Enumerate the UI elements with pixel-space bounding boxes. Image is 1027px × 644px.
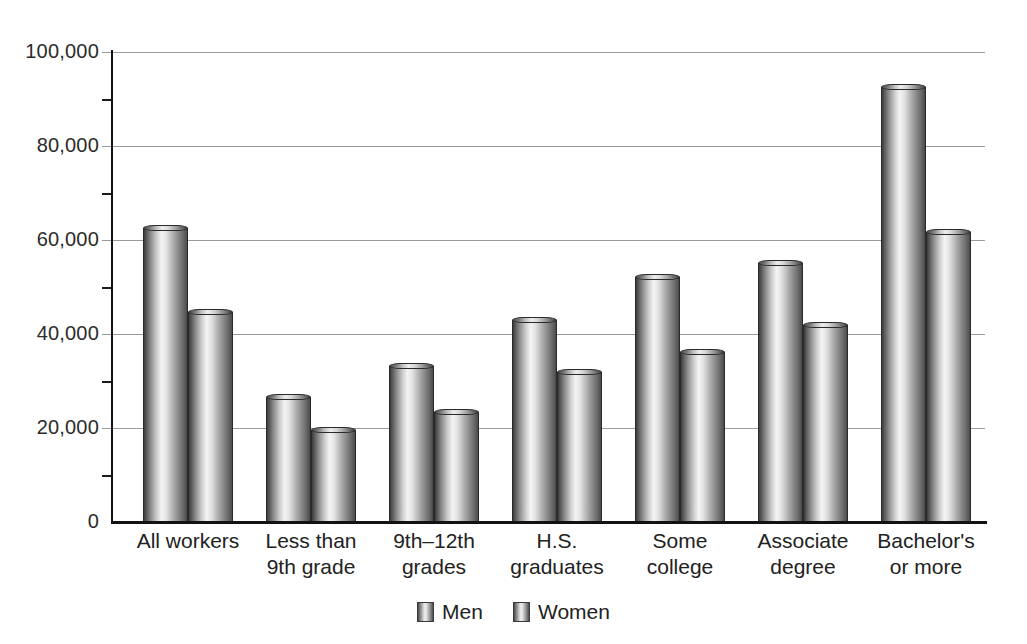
y-tick-label-20000: 20,000: [37, 416, 99, 439]
legend-label-women: Women: [538, 600, 610, 624]
x-axis-line: [111, 521, 987, 524]
y-tick-label-80000: 80,000: [37, 134, 99, 157]
bar-women-some-college: [680, 352, 725, 522]
bar-women-associate-degree: [803, 325, 848, 522]
tick-60000: [102, 240, 111, 241]
tick-100000: [102, 52, 111, 53]
bar-men-less-than-9th-grade: [266, 397, 311, 522]
bar-cap: [389, 363, 434, 369]
tick-80000: [102, 146, 111, 147]
bar-men-associate-degree: [758, 263, 803, 522]
bar-women-bachelors-or-more: [926, 232, 971, 522]
earnings-by-education-bar-chart: 100,000 80,000 60,000 40,000 20,000 0: [0, 0, 1027, 644]
tick-20000: [102, 428, 111, 429]
y-axis-labels: 100,000 80,000 60,000 40,000 20,000 0: [0, 0, 99, 644]
category-label-bachelors-or-more: Bachelor's or more: [841, 528, 1011, 580]
y-tick-label-60000: 60,000: [37, 228, 99, 251]
bar-cap: [635, 274, 680, 280]
tick-40000: [102, 334, 111, 335]
tick-90000: [102, 99, 111, 101]
x-axis-labels: All workers Less than 9th grade 9th–12th…: [111, 528, 987, 598]
y-tick-label-0: 0: [88, 510, 99, 533]
bar-cap: [188, 309, 233, 315]
bar-men-hs-graduates: [512, 320, 557, 522]
legend-swatch-icon-men: [417, 602, 434, 622]
bar-cap: [512, 317, 557, 323]
legend-label-men: Men: [442, 600, 483, 624]
legend-item-men: Men: [417, 600, 483, 624]
bar-women-hs-graduates: [557, 372, 602, 522]
bar-cap: [557, 369, 602, 375]
bar-men-bachelors-or-more: [881, 87, 926, 522]
bar-cap: [143, 225, 188, 231]
bar-men-9th-12th-grades: [389, 366, 434, 522]
bar-cap: [434, 409, 479, 415]
tick-30000: [102, 381, 111, 383]
bar-cap: [881, 84, 926, 90]
bar-men-all-workers: [143, 228, 188, 522]
y-axis-line: [111, 50, 113, 524]
tick-10000: [102, 475, 111, 477]
bar-women-less-than-9th-grade: [311, 430, 356, 522]
legend-item-women: Women: [513, 600, 610, 624]
y-tick-label-40000: 40,000: [37, 322, 99, 345]
bar-women-9th-12th-grades: [434, 412, 479, 522]
bar-men-some-college: [635, 277, 680, 522]
legend-swatch-icon-women: [513, 602, 530, 622]
bar-cap: [803, 322, 848, 328]
bar-cap: [311, 427, 356, 433]
bar-women-all-workers: [188, 312, 233, 522]
bar-cap: [266, 394, 311, 400]
y-tick-label-100000: 100,000: [25, 40, 99, 63]
bar-cap: [758, 260, 803, 266]
tick-70000: [102, 193, 111, 195]
bar-cap: [680, 349, 725, 355]
chart-legend: Men Women: [0, 600, 1027, 624]
bar-cap: [926, 229, 971, 235]
tick-50000: [102, 287, 111, 289]
